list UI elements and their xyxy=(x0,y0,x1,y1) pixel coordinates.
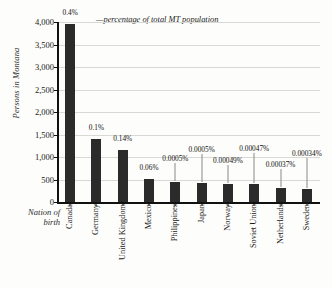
bar[interactable] xyxy=(223,184,233,202)
y-tick-label: 3,000 xyxy=(8,63,54,72)
data-label: 0.00034% xyxy=(292,150,322,157)
y-tick-mark xyxy=(54,180,58,181)
data-label: 0.06% xyxy=(140,164,159,171)
data-label: 0.4% xyxy=(63,9,78,16)
data-label: 0.00037% xyxy=(266,161,296,168)
x-category-label: Netherlands xyxy=(277,204,285,244)
y-tick-mark xyxy=(54,45,58,46)
x-axis-categories: CanadaGermanyUnited KingdomMexicoPhilipp… xyxy=(57,204,320,288)
y-tick-label: 0 xyxy=(8,198,54,207)
y-tick-mark xyxy=(54,112,58,113)
bar-chart: Persons in Montana Nation of birth —perc… xyxy=(0,0,332,288)
x-category-label: Canada xyxy=(66,204,74,229)
leader-line xyxy=(201,154,202,182)
y-tick-mark xyxy=(54,90,58,91)
bar-slot xyxy=(57,22,83,202)
bar[interactable] xyxy=(144,179,154,202)
leader-line xyxy=(306,158,307,188)
y-tick-mark xyxy=(54,22,58,23)
x-category-label: United Kingdom xyxy=(119,204,127,260)
y-tick-label: 1,500 xyxy=(8,131,54,140)
x-category-label: Philippines xyxy=(171,204,179,241)
x-axis-title: Nation of birth xyxy=(14,207,60,227)
data-label: 0.00047% xyxy=(239,145,269,152)
data-label: 0.14% xyxy=(113,135,132,142)
y-tick-mark xyxy=(54,202,58,203)
x-category-label: Germany xyxy=(92,204,100,235)
data-label: 0.0005% xyxy=(162,155,188,162)
x-category-label: Mexico xyxy=(145,204,153,229)
y-tick-mark xyxy=(54,135,58,136)
bar-slot xyxy=(110,22,136,202)
y-tick-label: 2,500 xyxy=(8,86,54,95)
bar[interactable] xyxy=(276,188,286,202)
leader-line xyxy=(227,165,228,183)
bar[interactable] xyxy=(65,24,75,202)
bar[interactable] xyxy=(302,189,312,202)
bar[interactable] xyxy=(118,150,128,202)
y-tick-mark xyxy=(54,157,58,158)
data-label: 0.0005% xyxy=(189,146,215,153)
x-category-label: Norway xyxy=(224,204,232,231)
bar[interactable] xyxy=(249,184,259,202)
bar-slot xyxy=(83,22,109,202)
plot-area: 0.4%0.1%0.14%0.06%0.0005%0.0005%0.00049%… xyxy=(57,22,320,202)
y-tick-label: 3,500 xyxy=(8,41,54,50)
y-tick-label: 500 xyxy=(8,176,54,185)
x-category-label: Japan xyxy=(198,204,206,223)
y-tick-label: 4,000 xyxy=(8,18,54,27)
x-category-label: Sweden xyxy=(303,204,311,230)
x-category-label: Soviet Union xyxy=(250,204,258,248)
bar[interactable] xyxy=(170,182,180,202)
leader-line xyxy=(175,163,176,181)
y-tick-label: 1,000 xyxy=(8,153,54,162)
data-label: 0.00049% xyxy=(213,157,243,164)
y-tick-label: 2,000 xyxy=(8,108,54,117)
y-tick-mark xyxy=(54,67,58,68)
x-axis-title-line1: Nation of xyxy=(28,207,60,217)
bar[interactable] xyxy=(91,139,101,202)
leader-line xyxy=(280,169,281,187)
data-label: 0.1% xyxy=(89,124,104,131)
bar-slot xyxy=(136,22,162,202)
leader-line xyxy=(254,153,255,183)
bar[interactable] xyxy=(197,183,207,202)
